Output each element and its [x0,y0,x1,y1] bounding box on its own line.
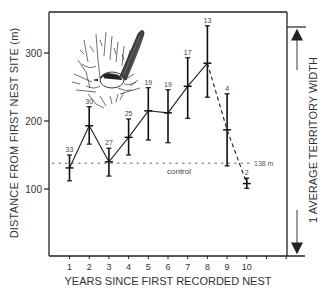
fairy-wren-illustration-icon [72,30,144,108]
sample-size-labels: 333027251919171342 [66,17,249,176]
y-axis-ticks: 100200300 [25,48,49,195]
x-tick-label: 10 [242,262,252,272]
y-tick-label: 200 [25,116,42,127]
y-tick-label: 100 [25,184,42,195]
x-axis-ticks: 12345678910 [67,256,286,272]
territory-width-bracket [287,27,306,253]
x-tick-label: 1 [67,262,72,272]
data-point [243,178,251,188]
plot-frame [49,12,305,256]
x-tick-label: 5 [146,262,151,272]
arrow-down-icon [292,243,302,253]
sample-size-label: 19 [164,81,172,88]
data-point [164,90,172,143]
data-point [203,26,211,97]
data-point [105,148,113,176]
data-line [70,63,247,183]
sample-size-label: 2 [245,169,249,176]
sample-size-label: 4 [225,85,229,92]
x-tick-label: 4 [126,262,131,272]
data-point [223,94,231,166]
data-point [85,107,93,144]
sample-size-label: 19 [144,79,152,86]
chart-canvas: 100200300 12345678910 138 mcontrol 33302… [0,0,325,292]
arrow-up-icon [292,30,302,40]
y-axis-label: DISTANCE FROM FIRST NEST SITE (m) [8,28,20,239]
x-tick-label: 7 [185,262,190,272]
x-tick-label: 8 [205,262,210,272]
control-reference-line: 138 mcontrol [52,160,274,176]
control-label: control [167,167,191,176]
error-bars [66,26,251,189]
sample-size-label: 13 [204,17,212,24]
sample-size-label: 27 [105,139,113,146]
x-tick-label: 2 [87,262,92,272]
sample-size-label: 17 [184,49,192,56]
sample-size-label: 33 [66,146,74,153]
sample-size-label: 30 [85,98,93,105]
data-point [66,155,74,181]
x-axis-label: YEARS SINCE FIRST RECORDED NEST [65,275,272,287]
x-tick-label: 3 [106,262,111,272]
y-tick-label: 300 [25,48,42,59]
x-tick-label: 9 [225,262,230,272]
data-point [125,119,133,155]
x-tick-label: 6 [165,262,170,272]
data-point [184,58,192,119]
territory-width-label: 1 AVERAGE TERRITORY WIDTH [307,57,319,223]
sample-size-label: 25 [125,110,133,117]
reference-value-label: 138 m [254,160,274,167]
